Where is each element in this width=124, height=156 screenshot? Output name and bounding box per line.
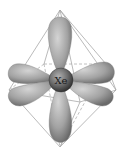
xe-orbital-diagram: Xe (0, 0, 124, 156)
xe-label: Xe (54, 75, 67, 86)
